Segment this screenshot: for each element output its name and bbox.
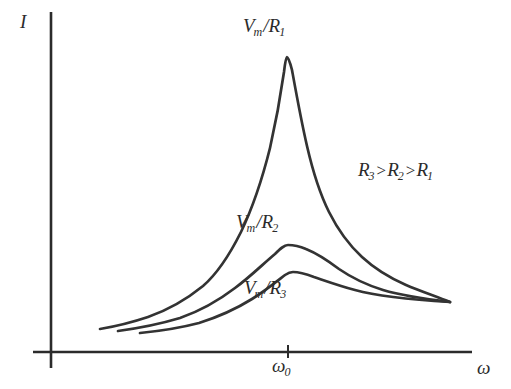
x-axis-tick-label-omega-zero: ω0 <box>272 356 291 375</box>
y-axis-label: I <box>20 12 26 31</box>
vm-numerator-3: V <box>244 277 256 298</box>
annotation-r3: R <box>358 159 370 180</box>
vm-numerator-2: V <box>236 211 248 232</box>
vm-numerator-sub-1: m <box>254 25 263 39</box>
curve-label-vm-over-r2: Vm/R2 <box>236 212 279 231</box>
vm-numerator-sub-2: m <box>247 221 256 235</box>
resonance-curve-r3 <box>140 272 450 333</box>
annotation-greater-than-1: > <box>376 161 388 180</box>
resistance-ordering-annotation: R3>R2>R1 <box>358 160 434 179</box>
r-denominator-sub-3: 3 <box>280 287 286 301</box>
plot-area <box>0 0 511 389</box>
curve-label-vm-over-r3: Vm/R3 <box>244 278 287 297</box>
omega-subscript: 0 <box>284 365 290 379</box>
annotation-greater-than-2: > <box>405 161 417 180</box>
vm-numerator-sub-3: m <box>255 287 264 301</box>
curve-label-vm-over-r1: Vm/R1 <box>243 16 286 35</box>
annotation-r3-sub: 3 <box>369 169 375 183</box>
x-axis-label: ω <box>477 358 490 377</box>
annotation-r1-sub: 1 <box>427 169 433 183</box>
vm-numerator-1: V <box>243 15 255 36</box>
r-denominator-sub-2: 2 <box>272 221 278 235</box>
resonance-curve-figure: I ω ω0 Vm/R1 Vm/R2 Vm/R3 R3>R2>R1 <box>0 0 511 389</box>
annotation-r2-sub: 2 <box>398 169 404 183</box>
r-denominator-sub-1: 1 <box>279 25 285 39</box>
